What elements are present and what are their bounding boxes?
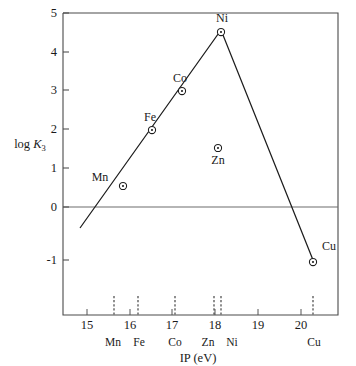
x-axis-title: IP (eV) (180, 351, 217, 365)
svg-text:log K3: log K3 (14, 137, 46, 153)
element-axis-label-cu: Cu (307, 336, 321, 348)
y-axis-tick-labels: 5 4 3 2 1 0 -1 (47, 6, 58, 267)
x-tick-label: 16 (124, 318, 137, 332)
y-axis-title-subscript: 3 (42, 143, 46, 153)
data-point-label-zn: Zn (211, 153, 224, 167)
element-axis-label-ni: Ni (226, 336, 238, 348)
y-tick-label: 5 (51, 6, 57, 20)
element-axis-label-mn: Mn (105, 336, 121, 348)
element-axis-labels: Mn Fe Co Zn Ni Cu (105, 336, 321, 348)
data-point-co[interactable] (178, 87, 185, 94)
y-tick-label: 1 (51, 161, 57, 175)
x-tick-label: 19 (252, 318, 265, 332)
data-point-mn[interactable] (119, 182, 126, 189)
y-tick-label: 3 (51, 83, 57, 97)
trend-line (80, 30, 315, 265)
y-tick-label: 0 (51, 200, 57, 214)
y-axis-ticks (63, 13, 69, 260)
y-axis-title: log K3 (14, 137, 46, 153)
data-points (119, 28, 316, 265)
element-axis-label-zn: Zn (202, 336, 215, 348)
element-axis-ticks (114, 296, 313, 315)
data-point-ni[interactable] (217, 28, 224, 35)
chart-plot: 5 4 3 2 1 0 -1 log K3 15 16 17 (0, 0, 356, 366)
y-tick-label: 4 (51, 45, 58, 59)
data-point-label-co: Co (173, 71, 187, 85)
x-tick-label: 20 (295, 318, 308, 332)
y-axis-title-prefix: log (14, 137, 33, 151)
x-axis-ticks (87, 309, 301, 315)
data-point-zn[interactable] (214, 144, 221, 151)
x-tick-label: 15 (81, 318, 94, 332)
data-point-labels: Mn Fe Co Ni Zn Cu (92, 11, 336, 253)
data-point-cu[interactable] (309, 258, 316, 265)
element-axis-label-fe: Fe (133, 336, 145, 348)
x-tick-label: 18 (209, 318, 222, 332)
data-point-label-mn: Mn (92, 170, 109, 184)
y-tick-label: 2 (51, 122, 57, 136)
y-tick-label: -1 (47, 253, 57, 267)
data-point-label-ni: Ni (216, 11, 229, 25)
data-point-label-cu: Cu (322, 239, 336, 253)
data-point-fe[interactable] (148, 126, 155, 133)
x-axis-tick-labels: 15 16 17 18 19 20 (81, 318, 308, 332)
figure-container: 5 4 3 2 1 0 -1 log K3 15 16 17 (0, 0, 356, 366)
element-axis-label-co: Co (168, 336, 182, 348)
x-tick-label: 17 (166, 318, 179, 332)
data-point-label-fe: Fe (144, 110, 156, 124)
